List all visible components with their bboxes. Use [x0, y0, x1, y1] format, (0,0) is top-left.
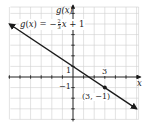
function-label: g(x) = −23x + 1 [19, 19, 85, 30]
y-tick-label-1: 1 [66, 67, 71, 75]
x-axis-label: x [137, 79, 142, 88]
fraction: 23 [58, 19, 61, 30]
data-points [103, 86, 107, 90]
y-axis-label: g(x) [56, 6, 73, 15]
x-tick-label-3: 3 [102, 68, 107, 76]
point-marker [103, 86, 107, 90]
point-label: (3, −1) [82, 93, 110, 101]
y-tick-label-minus-1: −1 [59, 83, 71, 91]
